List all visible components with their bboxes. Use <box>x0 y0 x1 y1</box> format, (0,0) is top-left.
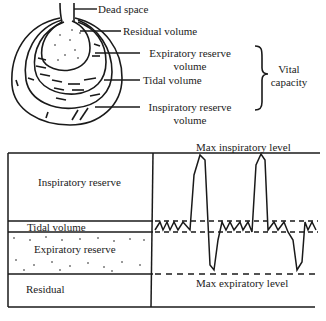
label-expiratory-reserve-line2: volume <box>143 60 237 73</box>
hatching <box>16 44 100 120</box>
label-dead-space: Dead space <box>98 3 148 16</box>
label-max-expiratory-level: Max expiratory level <box>196 277 288 290</box>
stipple <box>54 29 81 61</box>
label-inspiratory-reserve-line2: volume <box>142 114 238 127</box>
label-residual-volume: Residual volume <box>123 25 197 38</box>
label-expiratory-reserve-line1: Expiratory reserve <box>143 47 237 60</box>
label-inspiratory-reserve: Inspiratory reserve volume <box>142 101 238 127</box>
label-max-inspiratory-level: Max inspiratory level <box>196 141 291 154</box>
block-tidal-volume: Tidal volume <box>27 221 86 234</box>
label-inspiratory-reserve-line1: Inspiratory reserve <box>142 101 238 114</box>
label-vital-capacity: Vital capacity <box>264 63 314 89</box>
block-expiratory-reserve: Expiratory reserve <box>34 243 116 256</box>
block-inspiratory-reserve: Inspiratory reserve <box>38 176 121 189</box>
label-vital-capacity-line2: capacity <box>264 76 314 89</box>
label-vital-capacity-line1: Vital <box>264 63 314 76</box>
label-expiratory-reserve: Expiratory reserve volume <box>143 47 237 73</box>
spirogram-trace <box>155 154 316 270</box>
label-tidal-volume: Tidal volume <box>143 74 202 87</box>
block-residual: Residual <box>26 283 65 296</box>
